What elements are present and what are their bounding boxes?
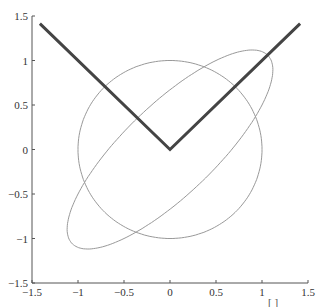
plot-area — [40, 24, 300, 249]
y-tick-label: −1 — [16, 233, 28, 245]
y-tick-label: −0.5 — [8, 188, 28, 200]
x-tick-label: 1.5 — [301, 286, 315, 298]
x-tick-label: 1 — [259, 286, 265, 298]
y-tick-label: 0 — [23, 144, 29, 156]
x-tick-label: 0.5 — [209, 286, 223, 298]
y-tick-label: 0.5 — [14, 99, 28, 111]
y-tick-label: 1 — [23, 55, 29, 67]
x-tick-label: 0 — [167, 286, 173, 298]
x-tick-label: −1 — [72, 286, 84, 298]
x-tick-label: −0.5 — [114, 286, 134, 298]
chart: −1.5−1.5−1−1−0.5−0.5000.50.5111.51.5 [ ] — [0, 0, 325, 307]
y-tick-label: −1.5 — [8, 277, 28, 289]
footer-bracket: [ ] — [268, 296, 278, 307]
y-tick-label: 1.5 — [14, 10, 28, 22]
V-lines-series — [40, 24, 300, 150]
